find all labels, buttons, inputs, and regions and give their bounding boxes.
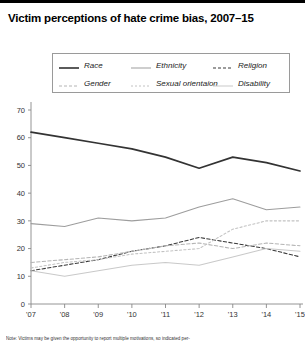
x-tick-label: '11 (161, 310, 170, 319)
legend-label: Disability (238, 79, 270, 88)
x-axis-tick-labels: '07'08'09'10'11'12'13'14'15 (26, 310, 305, 319)
legend-item-gender: Gender (59, 74, 131, 92)
y-tick-label: 70 (17, 106, 25, 115)
legend-label: Religion (238, 61, 267, 70)
legend-item-race: Race (59, 56, 131, 74)
x-tick-label: '09 (93, 310, 103, 319)
x-tick-label: '10 (127, 310, 137, 319)
legend-label: Gender (84, 79, 111, 88)
chart-series-lines (31, 132, 300, 276)
y-tick-label: 0 (21, 300, 25, 309)
legend-item-ethnicity: Ethnicity (131, 56, 213, 74)
x-tick-label: '08 (60, 310, 70, 319)
legend-row-2: GenderSexual orientaionDisability (53, 74, 289, 92)
series-line-religion (31, 237, 300, 270)
y-tick-label: 40 (17, 189, 25, 198)
series-line-gender (31, 243, 300, 262)
x-tick-label: '07 (26, 310, 36, 319)
legend-row-1: RaceEthnicityReligion (53, 56, 289, 74)
y-tick-label: 20 (17, 244, 25, 253)
series-line-race (31, 132, 300, 171)
y-tick-label: 30 (17, 217, 25, 226)
series-line-disability (31, 249, 300, 277)
chart-axes (28, 102, 303, 308)
chart-caption: Note: Victims may be given the opportuni… (6, 336, 302, 341)
x-tick-label: '15 (295, 310, 305, 319)
legend-item-sexual-orientaion: Sexual orientaion (131, 74, 213, 92)
top-rule (0, 0, 305, 3)
x-tick-label: '14 (261, 310, 271, 319)
legend-item-religion: Religion (213, 56, 291, 74)
legend-label: Race (84, 61, 103, 70)
line-chart-plot: 010203040506070 '07'08'09'10'11'12'13'14… (0, 96, 305, 336)
y-tick-label: 60 (17, 133, 25, 142)
legend-label: Sexual orientaion (156, 79, 218, 88)
x-tick-label: '12 (194, 310, 204, 319)
chart-legend: RaceEthnicityReligion GenderSexual orien… (52, 53, 290, 93)
x-tick-label: '13 (228, 310, 238, 319)
page-title: Victim perceptions of hate crime bias, 2… (8, 12, 298, 25)
legend-label: Ethnicity (156, 61, 186, 70)
series-line-ethnicity (31, 199, 300, 227)
legend-item-disability: Disability (213, 74, 291, 92)
y-tick-label: 50 (17, 161, 25, 170)
y-tick-label: 10 (17, 272, 25, 281)
y-axis-tick-labels: 010203040506070 (17, 106, 25, 309)
